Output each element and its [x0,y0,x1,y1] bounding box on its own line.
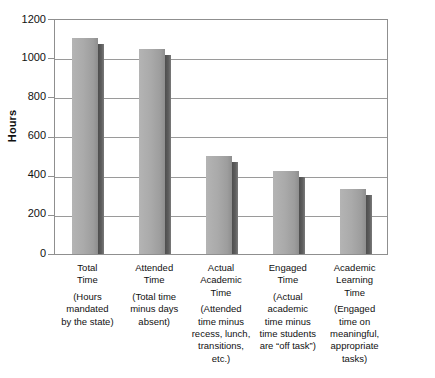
y-tick-label-0: 0 [2,248,46,259]
gridline-1000 [55,59,387,60]
bar-shadow-edge [366,195,372,254]
gridline-600 [55,137,387,138]
plot-area [54,19,388,255]
x-label-name: Attended Time [117,262,191,287]
x-label-description: (Attended time minus recess, lunch, tran… [184,303,258,365]
bar-attended-time [139,49,171,254]
y-tick-label-1200: 1200 [2,14,46,25]
gridline-800 [55,98,387,99]
bar-chart: Hours 1200 1000 800 600 400 200 0 Total … [0,0,435,378]
bar-shadow-edge [98,44,104,254]
bar-body [273,171,299,254]
x-label-description: (Engaged time on meaningful, appropriate… [318,303,392,365]
bar-academic-learning-time [340,189,372,254]
bar-body [206,156,232,254]
x-label-academic-learning-time: Academic Learning Time(Engaged time on m… [318,262,392,365]
x-label-description: (Hours mandated by the state) [50,291,124,328]
x-label-name: Actual Academic Time [184,262,258,299]
bar-shadow-edge [299,177,305,254]
y-tick-label-200: 200 [2,208,46,219]
y-tick-label-600: 600 [2,130,46,141]
x-label-name: Academic Learning Time [318,262,392,299]
x-label-name: Total Time [50,262,124,287]
y-axis-title: Hours [6,96,18,156]
x-label-engaged-time: Engaged Time(Actual academic time minus … [251,262,325,353]
bar-body [139,49,165,254]
x-label-description: (Actual academic time minus time student… [251,291,325,353]
x-label-description: (Total time minus days absent) [117,291,191,328]
x-label-name: Engaged Time [251,262,325,287]
x-axis-labels: Total Time(Hours mandated by the state) … [54,262,388,378]
x-label-attended-time: Attended Time(Total time minus days abse… [117,262,191,328]
y-tick-label-1000: 1000 [2,52,46,63]
bar-body [72,38,98,254]
bar-actual-academic-time [206,156,238,254]
bar-body [340,189,366,254]
x-label-actual-academic-time: Actual Academic Time(Attended time minus… [184,262,258,365]
bar-engaged-time [273,171,305,254]
x-label-total-time: Total Time(Hours mandated by the state) [50,262,124,328]
bar-shadow-edge [165,55,171,254]
y-tick-label-400: 400 [2,169,46,180]
bar-total-time [72,38,104,254]
bar-shadow-edge [232,162,238,254]
y-tick-label-800: 800 [2,91,46,102]
